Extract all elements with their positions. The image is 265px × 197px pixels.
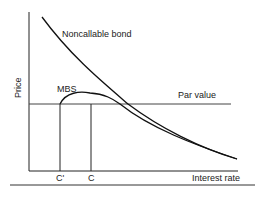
x-axis-label: Interest rate [192, 174, 240, 183]
chart-canvas [0, 0, 265, 197]
par-value-label: Par value [178, 91, 216, 100]
mbs-label: MBS [57, 85, 77, 94]
c-tick-label: C [88, 174, 95, 183]
noncallable-bond-label: Noncallable bond [62, 30, 132, 39]
y-axis-label: Price [14, 77, 23, 98]
mbs-curve [60, 92, 237, 159]
c-prime-tick-label: C' [56, 174, 64, 183]
